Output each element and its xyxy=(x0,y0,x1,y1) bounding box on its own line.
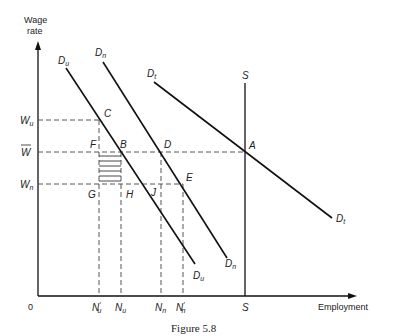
nn-prime-label: N′n xyxy=(176,301,186,314)
point-b-label: B xyxy=(120,139,127,150)
point-a-label: A xyxy=(248,140,256,151)
du-label-bottom: Du xyxy=(193,270,204,282)
y-axis-arrow-icon xyxy=(35,41,41,50)
du-label-top: Du xyxy=(58,55,69,67)
point-c-label: C xyxy=(104,108,112,119)
dt-curve xyxy=(154,82,332,218)
x-axis-arrow-icon xyxy=(348,293,357,299)
nn-label: Nn xyxy=(155,302,166,314)
figure-caption: Figure 5.8 xyxy=(171,322,217,334)
y-axis-label: Wage xyxy=(24,15,47,25)
dt-label-bottom: Dt xyxy=(336,213,346,225)
nu-label: Nu xyxy=(115,302,126,314)
point-d-label: D xyxy=(164,139,171,150)
point-g-label: G xyxy=(88,189,96,200)
du-curve xyxy=(66,68,195,264)
point-e-label: E xyxy=(186,172,193,183)
dn-label-top: Dn xyxy=(95,47,106,59)
labor-market-diagram: Wage rate Employment 0 Wu W Wn N′u Nu Nn… xyxy=(0,0,395,336)
wu-label: Wu xyxy=(20,115,33,127)
x-axis-label: Employment xyxy=(318,302,369,312)
dn-label-bottom: Dn xyxy=(225,258,236,270)
origin-label: 0 xyxy=(28,302,33,312)
wbar-label: W xyxy=(21,147,32,158)
nu-prime-label: N′u xyxy=(92,301,102,314)
s-label-top: S xyxy=(242,70,249,81)
s-axis-label: S xyxy=(242,302,249,313)
point-j-label: J xyxy=(150,187,157,198)
y-axis-label-2: rate xyxy=(27,26,43,36)
dt-label-top: Dt xyxy=(147,68,157,80)
point-f-label: F xyxy=(90,139,97,150)
wn-label: Wn xyxy=(20,179,33,191)
hatched-area xyxy=(99,156,121,181)
point-h-label: H xyxy=(126,189,134,200)
